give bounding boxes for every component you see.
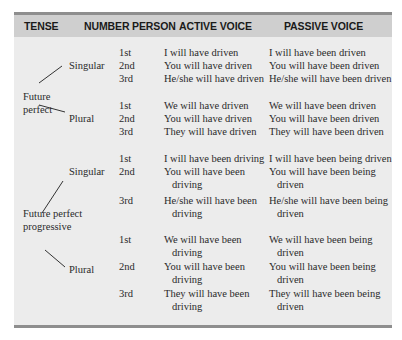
passive-cell: You will have been driven (269, 112, 379, 125)
passive-cell: They will have been driven (269, 125, 384, 138)
person-cell: 3rd (119, 125, 133, 138)
number-label: Plural (69, 112, 94, 125)
active-cell: I will have driven (164, 46, 238, 59)
person-cell: 1st (119, 152, 131, 165)
tense-label: perfect (23, 103, 52, 116)
passive-cell: You will have been being (269, 165, 376, 178)
passive-cell-continuation: driven (277, 300, 304, 313)
passive-cell: I will have been driven (269, 46, 366, 59)
active-cell: You will have been (164, 165, 245, 178)
passive-cell: I will have been being driven (269, 152, 392, 165)
connector-line (45, 250, 65, 267)
passive-cell-continuation: driven (277, 246, 304, 259)
person-cell: 2nd (119, 59, 135, 72)
passive-cell: He/she will have been being (269, 194, 388, 207)
passive-cell: You will have been driven (269, 59, 379, 72)
person-cell: 2nd (119, 260, 135, 273)
person-cell: 1st (119, 99, 131, 112)
active-cell: They will have been (164, 287, 249, 300)
active-cell: We will have been (164, 233, 242, 246)
active-cell: I will have been driving (164, 152, 264, 165)
person-cell: 3rd (119, 287, 133, 300)
passive-cell-continuation: driven (277, 273, 304, 286)
passive-cell: We will have been driven (269, 99, 376, 112)
person-cell: 1st (119, 46, 131, 59)
person-cell: 3rd (119, 194, 133, 207)
person-cell: 2nd (119, 112, 135, 125)
tense-label: Future (23, 90, 50, 103)
person-cell: 3rd (119, 72, 133, 85)
active-cell-continuation: driving (172, 207, 202, 220)
active-cell-continuation: driving (172, 273, 202, 286)
number-label: Singular (69, 59, 105, 72)
number-label: Singular (69, 165, 105, 178)
passive-cell: They will have been being (269, 287, 380, 300)
person-cell: 2nd (119, 165, 135, 178)
passive-cell-continuation: driven (277, 207, 304, 220)
tense-label: progressive (23, 220, 71, 233)
passive-cell: We will have been being (269, 233, 373, 246)
active-cell-continuation: driving (172, 246, 202, 259)
active-cell: You will have driven (164, 59, 252, 72)
active-cell: You will have driven (164, 112, 252, 125)
active-cell: You will have been (164, 260, 245, 273)
active-cell: He/she will have been (164, 194, 257, 207)
active-cell: We will have driven (164, 99, 249, 112)
active-cell: They will have driven (164, 125, 256, 138)
connector-line (39, 66, 62, 83)
active-cell-continuation: driving (172, 300, 202, 313)
number-label: Plural (69, 263, 94, 276)
active-cell-continuation: driving (172, 178, 202, 191)
active-cell: He/she will have driven (164, 72, 264, 85)
passive-cell-continuation: driven (277, 178, 304, 191)
tense-label: Future perfect (23, 207, 82, 220)
passive-cell: He/she will have been driven (269, 72, 391, 85)
person-cell: 1st (119, 233, 131, 246)
passive-cell: You will have been being (269, 260, 376, 273)
